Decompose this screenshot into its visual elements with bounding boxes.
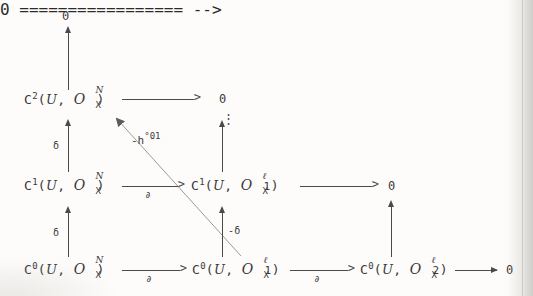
node-c0l1-functor: C — [192, 262, 200, 277]
node-c1l1-cover: U — [213, 178, 224, 193]
node-c0l2-cover: U — [382, 262, 393, 277]
node-c1l1-degree: 1 — [199, 177, 204, 187]
node-c0-ON: C0(U, OXN) — [24, 262, 105, 276]
arrow-c0l2-to-far-right-zero — [455, 270, 497, 271]
node-c0l2-functor: C — [360, 262, 368, 277]
node-c0l1-sheaf-sup: ℓ — [264, 256, 268, 265]
node-c1N-degree: 1 — [32, 177, 37, 187]
arrow-c2N-to-mid-zero — [122, 99, 194, 100]
arrow-c2N-to-top-zero — [68, 32, 69, 90]
label-delta-lower-left: δ — [53, 228, 59, 238]
label-partial-mid-row: ∂ — [145, 191, 151, 200]
node-c1l1-sheaf-sub: X — [263, 187, 269, 196]
arrow-delta-c0N-to-c1N — [68, 212, 69, 257]
node-c1N-sheaf-sub: X — [96, 187, 102, 196]
node-c1l1-functor: C — [191, 178, 199, 193]
node-c1N-sheaf-sup: N — [96, 172, 104, 181]
node-c2-ON: C2(U, OXN) — [24, 92, 105, 106]
node-c1l1-sheaf-sup: ℓ — [263, 172, 267, 181]
node-c0N-cover: U — [46, 262, 57, 277]
node-mid-zero: 0 — [219, 93, 226, 105]
label-partial-bottom-left: ∂ — [146, 275, 152, 284]
node-c2-sheaf-sub: X — [96, 101, 102, 110]
node-c0l2-sheaf: OXℓ — [410, 262, 433, 276]
node-c0l1-sheaf-sub: X — [264, 271, 270, 280]
node-c0-Ol2: C0(U, OXℓ2) — [360, 262, 448, 276]
label-delta-upper-left: δ — [53, 141, 59, 151]
page-edge-line — [522, 0, 523, 296]
arrow-partial-c0l1-to-c0l2 — [290, 270, 348, 271]
label-neg-delta-middle: -δ — [228, 226, 241, 236]
node-c0N-sheaf-sub: X — [96, 271, 102, 280]
node-c2-cover: U — [46, 92, 57, 107]
node-c2-sheaf-sup: N — [96, 86, 104, 95]
label-homotopy: -h°01 — [131, 132, 161, 146]
node-c0N-sheaf: OXN — [74, 262, 97, 276]
node-c0N-sheaf-sup: N — [96, 256, 104, 265]
arrow-delta-c1N-to-c2N — [68, 125, 69, 172]
page-edge-shading — [507, 0, 533, 296]
node-c1-ON: C1(U, OXN) — [24, 178, 105, 192]
node-c0l2-sheaf-sub: X — [432, 271, 438, 280]
node-c2-degree: 2 — [32, 91, 37, 101]
node-right-zero: 0 — [388, 180, 395, 192]
arrow-partial-c1N-to-c1l1 — [122, 186, 178, 187]
arrow-c1l1-to-right-zero — [300, 186, 372, 187]
arrow-c0l2-to-right-zero — [391, 206, 392, 257]
node-c1-Ol1: C1(U, OXℓ1) — [191, 178, 279, 192]
node-c1N-functor: C — [24, 178, 32, 193]
node-c0-Ol1: C0(U, OXℓ1) — [192, 262, 280, 276]
node-c0l1-degree: 0 — [200, 261, 205, 271]
arrow-neg-delta-c0l1-to-c1l1 — [222, 212, 223, 257]
node-c1N-cover: U — [46, 178, 57, 193]
label-partial-bottom-right: ∂ — [314, 275, 320, 284]
node-c2-functor: C — [24, 92, 32, 107]
node-c2-sheaf: OXN — [74, 92, 97, 106]
node-far-right-zero: 0 — [506, 264, 513, 276]
label-homotopy-text: -h — [131, 134, 144, 147]
node-c0l1-sheaf: OXℓ — [242, 262, 265, 276]
commutative-diagram: 0 0 ================= --> C2(U, OXN) 0 ⋮… — [0, 0, 533, 296]
node-c1l1-sheaf: OXℓ — [241, 178, 264, 192]
node-c1N-sheaf: OXN — [74, 178, 97, 192]
node-c0l2-sheaf-sup: ℓ — [432, 256, 436, 265]
node-c0l2-degree: 0 — [368, 261, 373, 271]
node-c0N-degree: 0 — [32, 261, 37, 271]
node-c0l1-cover: U — [214, 262, 225, 277]
arrow-c1l1-to-mid-zero — [222, 126, 223, 172]
label-homotopy-sup: °01 — [144, 131, 160, 141]
node-c0N-functor: C — [24, 262, 32, 277]
arrow-partial-c0N-to-c0l1 — [122, 270, 180, 271]
node-top-zero: 0 — [62, 10, 69, 22]
